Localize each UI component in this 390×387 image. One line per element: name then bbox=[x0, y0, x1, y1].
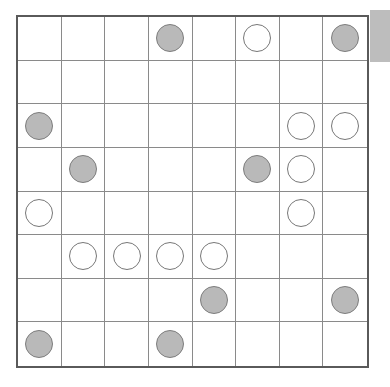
board-cell-r2c3[interactable] bbox=[105, 61, 149, 105]
board-cell-r8c3[interactable] bbox=[105, 322, 149, 366]
board-cell-r3c6[interactable] bbox=[236, 104, 280, 148]
board-cell-r3c2[interactable] bbox=[62, 104, 106, 148]
board-cell-r8c6[interactable] bbox=[236, 322, 280, 366]
gray-piece[interactable] bbox=[156, 24, 184, 52]
board-cell-r1c5[interactable] bbox=[193, 17, 237, 61]
board-cell-r1c4[interactable] bbox=[149, 17, 193, 61]
board-cell-r5c4[interactable] bbox=[149, 192, 193, 236]
gray-piece[interactable] bbox=[25, 330, 53, 358]
board-cell-r8c2[interactable] bbox=[62, 322, 106, 366]
board-cell-r3c7[interactable] bbox=[280, 104, 324, 148]
board-cell-r3c5[interactable] bbox=[193, 104, 237, 148]
board-cell-r6c7[interactable] bbox=[280, 235, 324, 279]
board-cell-r5c5[interactable] bbox=[193, 192, 237, 236]
board-cell-r7c6[interactable] bbox=[236, 279, 280, 323]
white-piece[interactable] bbox=[156, 242, 184, 270]
white-piece[interactable] bbox=[287, 112, 315, 140]
board-cell-r5c1[interactable] bbox=[18, 192, 62, 236]
white-piece[interactable] bbox=[69, 242, 97, 270]
board-cell-r2c8[interactable] bbox=[323, 61, 367, 105]
board-app bbox=[0, 0, 390, 387]
white-piece[interactable] bbox=[113, 242, 141, 270]
white-piece[interactable] bbox=[287, 155, 315, 183]
board-cell-r4c3[interactable] bbox=[105, 148, 149, 192]
board-cell-r5c2[interactable] bbox=[62, 192, 106, 236]
board-cell-r6c5[interactable] bbox=[193, 235, 237, 279]
board-cell-r6c6[interactable] bbox=[236, 235, 280, 279]
board-cell-r2c5[interactable] bbox=[193, 61, 237, 105]
board-cell-r4c6[interactable] bbox=[236, 148, 280, 192]
board-cell-r7c1[interactable] bbox=[18, 279, 62, 323]
gray-piece[interactable] bbox=[69, 155, 97, 183]
white-piece[interactable] bbox=[287, 199, 315, 227]
board-cell-r3c8[interactable] bbox=[323, 104, 367, 148]
board-cell-r1c3[interactable] bbox=[105, 17, 149, 61]
board-cell-r1c6[interactable] bbox=[236, 17, 280, 61]
gray-piece[interactable] bbox=[156, 330, 184, 358]
board-cell-r6c1[interactable] bbox=[18, 235, 62, 279]
board-cell-r2c2[interactable] bbox=[62, 61, 106, 105]
gray-piece[interactable] bbox=[243, 155, 271, 183]
board-cell-r3c3[interactable] bbox=[105, 104, 149, 148]
board-cell-r2c1[interactable] bbox=[18, 61, 62, 105]
board-cell-r3c1[interactable] bbox=[18, 104, 62, 148]
board-cell-r4c8[interactable] bbox=[323, 148, 367, 192]
board-cell-r7c2[interactable] bbox=[62, 279, 106, 323]
board-cell-r1c7[interactable] bbox=[280, 17, 324, 61]
page-edge-tab bbox=[370, 10, 390, 62]
board-cell-r7c3[interactable] bbox=[105, 279, 149, 323]
board-cell-r6c8[interactable] bbox=[323, 235, 367, 279]
board-cell-r1c8[interactable] bbox=[323, 17, 367, 61]
board-cell-r6c3[interactable] bbox=[105, 235, 149, 279]
board-cell-r7c5[interactable] bbox=[193, 279, 237, 323]
board-cell-r5c7[interactable] bbox=[280, 192, 324, 236]
white-piece[interactable] bbox=[243, 24, 271, 52]
board-cell-r5c8[interactable] bbox=[323, 192, 367, 236]
game-board[interactable] bbox=[16, 15, 369, 368]
board-cell-r4c5[interactable] bbox=[193, 148, 237, 192]
board-cell-r5c6[interactable] bbox=[236, 192, 280, 236]
board-cell-r6c4[interactable] bbox=[149, 235, 193, 279]
board-cell-r7c4[interactable] bbox=[149, 279, 193, 323]
board-cell-r8c5[interactable] bbox=[193, 322, 237, 366]
board-cell-r5c3[interactable] bbox=[105, 192, 149, 236]
board-cell-r4c2[interactable] bbox=[62, 148, 106, 192]
white-piece[interactable] bbox=[200, 242, 228, 270]
board-cell-r2c4[interactable] bbox=[149, 61, 193, 105]
board-cell-r4c7[interactable] bbox=[280, 148, 324, 192]
board-cell-r8c8[interactable] bbox=[323, 322, 367, 366]
board-cell-r1c2[interactable] bbox=[62, 17, 106, 61]
board-cell-r1c1[interactable] bbox=[18, 17, 62, 61]
white-piece[interactable] bbox=[25, 199, 53, 227]
gray-piece[interactable] bbox=[331, 286, 359, 314]
gray-piece[interactable] bbox=[25, 112, 53, 140]
board-cell-r4c1[interactable] bbox=[18, 148, 62, 192]
board-grid bbox=[18, 17, 367, 366]
gray-piece[interactable] bbox=[331, 24, 359, 52]
white-piece[interactable] bbox=[331, 112, 359, 140]
board-cell-r8c1[interactable] bbox=[18, 322, 62, 366]
board-cell-r8c7[interactable] bbox=[280, 322, 324, 366]
board-cell-r6c2[interactable] bbox=[62, 235, 106, 279]
board-cell-r7c7[interactable] bbox=[280, 279, 324, 323]
board-cell-r2c6[interactable] bbox=[236, 61, 280, 105]
board-cell-r8c4[interactable] bbox=[149, 322, 193, 366]
board-cell-r4c4[interactable] bbox=[149, 148, 193, 192]
board-cell-r2c7[interactable] bbox=[280, 61, 324, 105]
board-cell-r3c4[interactable] bbox=[149, 104, 193, 148]
gray-piece[interactable] bbox=[200, 286, 228, 314]
board-cell-r7c8[interactable] bbox=[323, 279, 367, 323]
